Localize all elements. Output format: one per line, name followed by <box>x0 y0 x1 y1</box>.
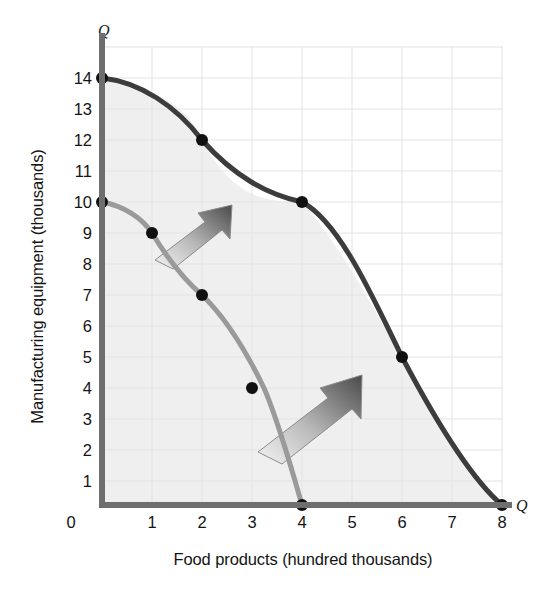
ppf-chart: Manufacturing equipment (thousands) Food… <box>0 0 543 589</box>
plot-canvas <box>0 0 543 589</box>
